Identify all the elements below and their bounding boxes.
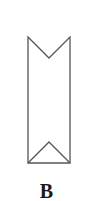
figure-label: B — [0, 180, 93, 201]
notched-rectangle-shape — [28, 37, 70, 163]
diagram-figure — [0, 0, 93, 201]
